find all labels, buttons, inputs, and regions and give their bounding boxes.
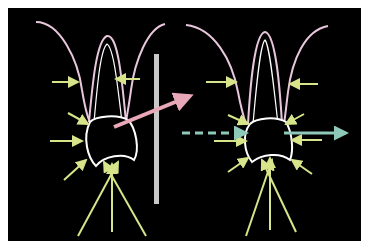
left-gingiva-outline <box>36 22 90 122</box>
right-force-arrows <box>206 82 322 236</box>
barrier-bar <box>154 54 159 204</box>
right-gingiva-outline-right <box>284 26 328 124</box>
right-gingiva-outline <box>186 25 246 124</box>
tooth-force-diagram <box>0 0 368 249</box>
left-tooth <box>36 22 165 236</box>
right-crown <box>245 118 292 162</box>
right-tooth <box>182 25 346 236</box>
left-crown <box>86 116 137 166</box>
